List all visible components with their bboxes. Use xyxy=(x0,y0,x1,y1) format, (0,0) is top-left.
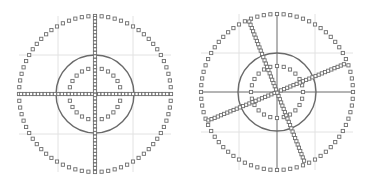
square-marker xyxy=(299,149,302,152)
square-marker xyxy=(297,146,300,149)
square-marker xyxy=(93,20,96,23)
square-marker xyxy=(222,35,225,38)
square-marker xyxy=(50,156,53,159)
square-marker xyxy=(93,111,96,114)
square-marker xyxy=(282,107,285,110)
square-marker xyxy=(125,92,128,95)
square-marker xyxy=(119,86,122,89)
square-marker xyxy=(61,22,64,25)
square-marker xyxy=(50,29,53,32)
square-marker xyxy=(290,127,293,130)
square-marker xyxy=(106,70,109,73)
square-marker xyxy=(334,141,337,144)
square-marker xyxy=(302,159,305,162)
square-marker xyxy=(349,111,352,114)
square-marker xyxy=(60,92,63,95)
square-marker xyxy=(93,121,96,124)
square-marker xyxy=(131,25,134,28)
square-marker xyxy=(202,111,205,114)
square-marker xyxy=(26,92,29,95)
square-marker xyxy=(308,20,311,23)
square-marker xyxy=(262,167,265,170)
square-marker xyxy=(149,92,152,95)
square-marker xyxy=(165,66,168,69)
square-marker xyxy=(347,117,350,120)
square-marker xyxy=(152,92,155,95)
square-marker xyxy=(287,120,290,123)
square-marker xyxy=(263,59,266,62)
square-marker xyxy=(200,97,203,100)
square-marker xyxy=(40,92,43,95)
square-marker xyxy=(294,109,297,112)
square-marker xyxy=(93,104,96,107)
square-marker xyxy=(98,92,101,95)
square-marker xyxy=(162,59,165,62)
square-marker xyxy=(80,169,83,172)
square-marker xyxy=(93,34,96,37)
square-marker xyxy=(75,74,78,77)
square-marker xyxy=(18,86,21,89)
square-marker xyxy=(275,116,278,119)
square-marker xyxy=(93,170,96,173)
square-marker xyxy=(204,64,207,67)
square-marker xyxy=(93,30,96,33)
square-marker xyxy=(132,92,135,95)
square-marker xyxy=(93,139,96,142)
square-marker xyxy=(28,131,31,134)
square-marker xyxy=(36,92,39,95)
square-marker xyxy=(159,53,162,56)
square-marker xyxy=(199,90,202,93)
square-marker xyxy=(349,70,352,73)
left-panel xyxy=(17,14,172,173)
square-marker xyxy=(341,51,344,54)
square-marker xyxy=(75,111,78,114)
square-marker xyxy=(93,51,96,54)
square-marker xyxy=(227,31,230,34)
square-marker xyxy=(200,84,203,87)
square-marker xyxy=(93,128,96,131)
square-marker xyxy=(288,124,291,127)
square-marker xyxy=(68,99,71,102)
square-marker xyxy=(93,83,96,86)
right-panel xyxy=(199,12,354,171)
square-marker xyxy=(273,85,276,88)
square-marker xyxy=(260,52,263,55)
square-marker xyxy=(93,114,96,117)
square-marker xyxy=(167,113,170,116)
square-marker xyxy=(272,81,275,84)
square-marker xyxy=(93,135,96,138)
square-marker xyxy=(30,92,33,95)
square-marker xyxy=(264,62,267,65)
square-marker xyxy=(93,167,96,170)
square-marker xyxy=(35,42,38,45)
square-marker xyxy=(301,164,304,167)
square-marker xyxy=(93,146,96,149)
square-marker xyxy=(257,109,260,112)
square-marker xyxy=(93,76,96,79)
square-marker xyxy=(169,92,172,95)
square-marker xyxy=(253,77,256,80)
square-marker xyxy=(147,37,150,40)
square-marker xyxy=(106,115,109,118)
square-marker xyxy=(258,46,261,49)
square-marker xyxy=(278,98,281,101)
square-marker xyxy=(237,158,240,161)
square-marker xyxy=(292,133,295,136)
square-marker xyxy=(152,143,155,146)
square-marker xyxy=(118,92,121,95)
square-marker xyxy=(262,56,265,59)
square-marker xyxy=(291,130,294,133)
square-marker xyxy=(19,92,22,95)
square-marker xyxy=(93,118,96,121)
square-marker xyxy=(74,17,77,20)
square-marker xyxy=(201,104,204,107)
square-marker xyxy=(301,97,304,100)
square-marker xyxy=(119,99,122,102)
square-marker xyxy=(217,141,220,144)
square-marker xyxy=(296,143,299,146)
square-marker xyxy=(282,65,285,68)
square-marker xyxy=(31,137,34,140)
square-marker xyxy=(282,168,285,171)
square-marker xyxy=(282,13,285,16)
square-marker xyxy=(152,42,155,45)
